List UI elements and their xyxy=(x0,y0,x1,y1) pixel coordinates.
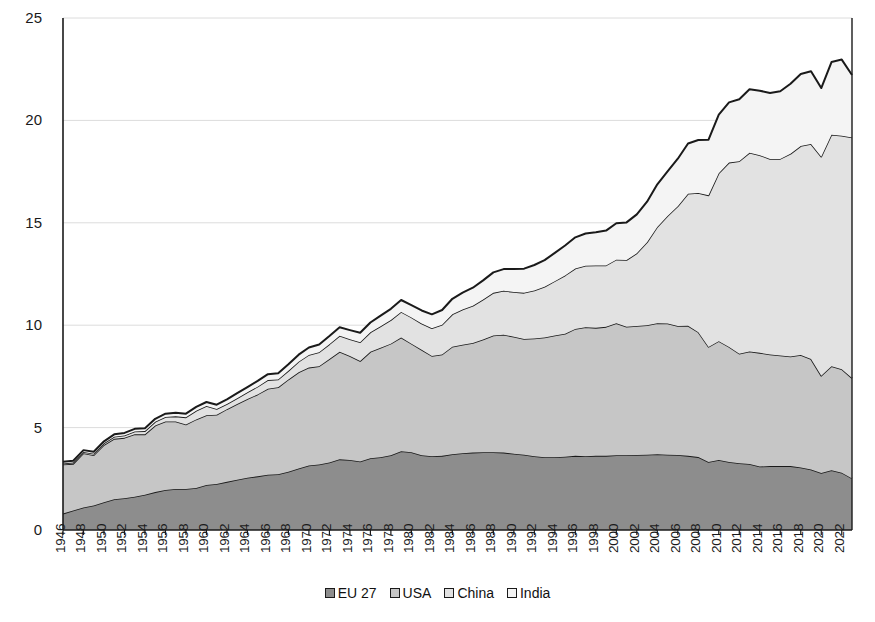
x-axis-tick-label: 1978 xyxy=(381,524,396,553)
x-axis-tick-label: 1956 xyxy=(155,524,170,553)
y-axis-tick-label: 20 xyxy=(8,111,42,128)
legend-item-china[interactable]: China xyxy=(444,586,494,600)
x-axis-tick-label: 1954 xyxy=(135,524,150,553)
x-axis-tick-label: 2016 xyxy=(770,524,785,553)
x-axis-tick-label: 2008 xyxy=(688,524,703,553)
stacked-area-series xyxy=(63,60,852,530)
y-axis-tick-label: 25 xyxy=(8,9,42,26)
x-axis-tick-label: 1976 xyxy=(360,524,375,553)
legend-label: USA xyxy=(403,586,432,600)
x-axis-tick-label: 2004 xyxy=(647,524,662,553)
x-axis-tick-label: 1966 xyxy=(258,524,273,553)
x-axis-tick-label: 1994 xyxy=(545,524,560,553)
y-axis-tick-label: 5 xyxy=(8,419,42,436)
legend-item-usa[interactable]: USA xyxy=(390,586,432,600)
legend-label: India xyxy=(520,586,550,600)
x-axis-tick-label: 1992 xyxy=(524,524,539,553)
x-axis-tick-label: 1986 xyxy=(463,524,478,553)
legend-label: EU 27 xyxy=(338,586,377,600)
legend-swatch-icon xyxy=(390,588,400,598)
x-axis-tick-label: 1962 xyxy=(217,524,232,553)
x-axis-tick-label: 2000 xyxy=(606,524,621,553)
x-axis-tick-label: 1990 xyxy=(504,524,519,553)
x-axis-tick-label: 1996 xyxy=(565,524,580,553)
x-axis-tick-label: 1984 xyxy=(442,524,457,553)
y-axis-tick-label: 15 xyxy=(8,214,42,231)
x-axis-tick-label: 2010 xyxy=(709,524,724,553)
chart-legend: EU 27USAChinaIndia xyxy=(0,586,875,600)
x-axis-tick-label: 1958 xyxy=(176,524,191,553)
x-axis-tick-label: 1988 xyxy=(483,524,498,553)
x-axis-tick-label: 1946 xyxy=(53,524,68,553)
x-axis-tick-label: 2002 xyxy=(627,524,642,553)
x-axis-tick-label: 1960 xyxy=(196,524,211,553)
y-axis-tick-label: 0 xyxy=(8,521,42,538)
x-axis-tick-label: 2022 xyxy=(832,524,847,553)
area-chart: 2520151050 19461948195019521954195619581… xyxy=(0,0,875,622)
legend-swatch-icon xyxy=(325,588,335,598)
legend-item-eu-27[interactable]: EU 27 xyxy=(325,586,377,600)
x-axis-tick-label: 1972 xyxy=(319,524,334,553)
x-axis-tick-label: 1998 xyxy=(586,524,601,553)
legend-item-india[interactable]: India xyxy=(507,586,550,600)
x-axis-tick-label: 1974 xyxy=(340,524,355,553)
legend-swatch-icon xyxy=(507,588,517,598)
x-axis-tick-label: 1964 xyxy=(237,524,252,553)
x-axis-tick-label: 1980 xyxy=(401,524,416,553)
x-axis-tick-label: 1970 xyxy=(299,524,314,553)
x-axis-tick-label: 1982 xyxy=(422,524,437,553)
x-axis-tick-label: 1952 xyxy=(114,524,129,553)
x-axis-tick-label: 2012 xyxy=(729,524,744,553)
x-axis-tick-label: 2018 xyxy=(791,524,806,553)
legend-label: China xyxy=(457,586,494,600)
x-axis-tick-label: 2020 xyxy=(811,524,826,553)
legend-swatch-icon xyxy=(444,588,454,598)
x-axis-tick-label: 1950 xyxy=(94,524,109,553)
x-axis-tick-label: 2014 xyxy=(750,524,765,553)
x-axis-tick-label: 1948 xyxy=(73,524,88,553)
y-axis-tick-label: 10 xyxy=(8,316,42,333)
x-axis-tick-label: 1968 xyxy=(278,524,293,553)
x-axis-tick-label: 2006 xyxy=(668,524,683,553)
